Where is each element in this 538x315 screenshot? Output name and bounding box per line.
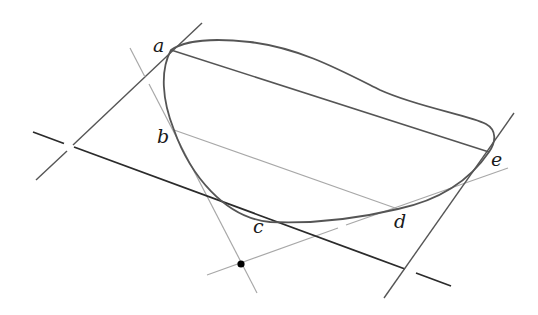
label-e: e (491, 148, 502, 170)
closed-curve (164, 40, 494, 222)
geometry-diagram: a b c d e (0, 0, 538, 315)
label-d: d (394, 210, 406, 232)
label-c: c (253, 215, 264, 237)
label-a: a (153, 34, 164, 56)
intersection-dot (237, 260, 244, 267)
label-b: b (157, 125, 169, 147)
